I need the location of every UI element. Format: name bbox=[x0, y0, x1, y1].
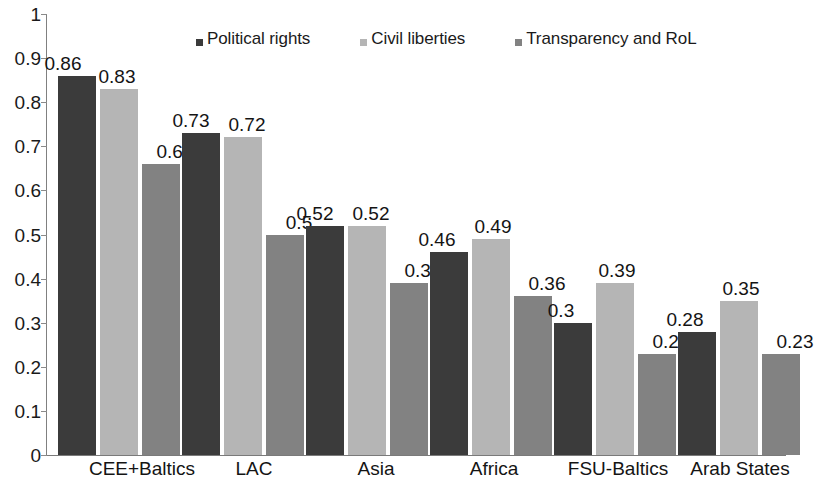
y-tick-label: 0.8 bbox=[0, 93, 46, 112]
bar-value-label: 0.36 bbox=[514, 274, 580, 293]
bar bbox=[430, 252, 468, 455]
bar bbox=[554, 323, 592, 455]
plot-area: 0.860.830.660.730.720.50.520.520.390.460… bbox=[46, 14, 786, 455]
bar bbox=[472, 239, 510, 455]
y-tick-label: 0.7 bbox=[0, 137, 46, 156]
y-tick-label: 0.5 bbox=[0, 226, 46, 245]
bar bbox=[266, 235, 304, 456]
x-axis-label-5: Arab States bbox=[660, 459, 818, 478]
bar-value-label: 0.49 bbox=[460, 217, 526, 236]
y-tick-label: 0.3 bbox=[0, 314, 46, 333]
bar bbox=[142, 164, 180, 455]
bar-value-label: 0.23 bbox=[762, 332, 818, 351]
y-tick-label: 0.4 bbox=[0, 270, 46, 289]
x-axis-line bbox=[46, 455, 786, 456]
bar bbox=[514, 296, 552, 455]
bar bbox=[720, 301, 758, 455]
y-tick-label: 0.1 bbox=[0, 402, 46, 421]
bar bbox=[182, 133, 220, 455]
y-tick-label: 1 bbox=[0, 5, 46, 24]
bar-value-label: 0.39 bbox=[584, 261, 650, 280]
y-tick-label: 0 bbox=[0, 446, 46, 465]
bar-value-label: 0.3 bbox=[528, 301, 594, 320]
bar-value-label: 0.72 bbox=[214, 115, 280, 134]
bar bbox=[306, 226, 344, 455]
bar bbox=[390, 283, 428, 455]
bar bbox=[224, 137, 262, 455]
bar-value-label: 0.28 bbox=[652, 310, 718, 329]
bar bbox=[348, 226, 386, 455]
bar-value-label: 0.83 bbox=[84, 67, 150, 86]
bar bbox=[678, 332, 716, 455]
bar bbox=[638, 354, 676, 455]
bar bbox=[100, 89, 138, 455]
y-tick-label: 0.2 bbox=[0, 358, 46, 377]
bar bbox=[762, 354, 800, 455]
bar-value-label: 0.35 bbox=[708, 279, 774, 298]
bar-value-label: 0.52 bbox=[338, 204, 404, 223]
y-tick-label: 0.6 bbox=[0, 181, 46, 200]
bar bbox=[596, 283, 634, 455]
bar bbox=[58, 76, 96, 455]
